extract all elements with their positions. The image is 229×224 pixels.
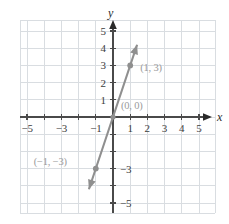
data-point-marker — [127, 63, 133, 69]
y-tick-label: 5 — [100, 26, 105, 37]
x-tick-label: −3 — [56, 123, 67, 134]
y-tick-label: −5 — [120, 198, 131, 209]
y-tick-label: 3 — [100, 60, 105, 71]
x-tick-label: −1 — [90, 123, 101, 134]
y-tick-label: 2 — [100, 78, 105, 89]
x-tick-label: −5 — [21, 123, 32, 134]
point-coordinate-label: (0, 0) — [121, 101, 143, 112]
x-tick-label: 5 — [196, 123, 201, 134]
y-tick-label: 4 — [100, 43, 105, 54]
graph-canvas — [0, 0, 229, 224]
point-coordinate-label: (−1, −3) — [34, 157, 67, 168]
x-axis-label: x — [217, 111, 222, 123]
y-tick-label: 1 — [100, 95, 105, 106]
data-point-marker — [93, 166, 99, 172]
x-tick-label: 4 — [179, 123, 184, 134]
data-point-marker-origin — [110, 114, 115, 119]
y-axis-label: y — [108, 7, 113, 19]
coordinate-plane-figure: y x −5−3−11234554321−3−5(1, 3)(0, 0)(−1,… — [0, 0, 229, 224]
x-tick-label: 3 — [162, 123, 167, 134]
x-tick-label: 2 — [145, 123, 150, 134]
y-tick-label: −3 — [120, 164, 131, 175]
x-tick-label: 1 — [127, 123, 132, 134]
point-coordinate-label: (1, 3) — [140, 63, 162, 74]
